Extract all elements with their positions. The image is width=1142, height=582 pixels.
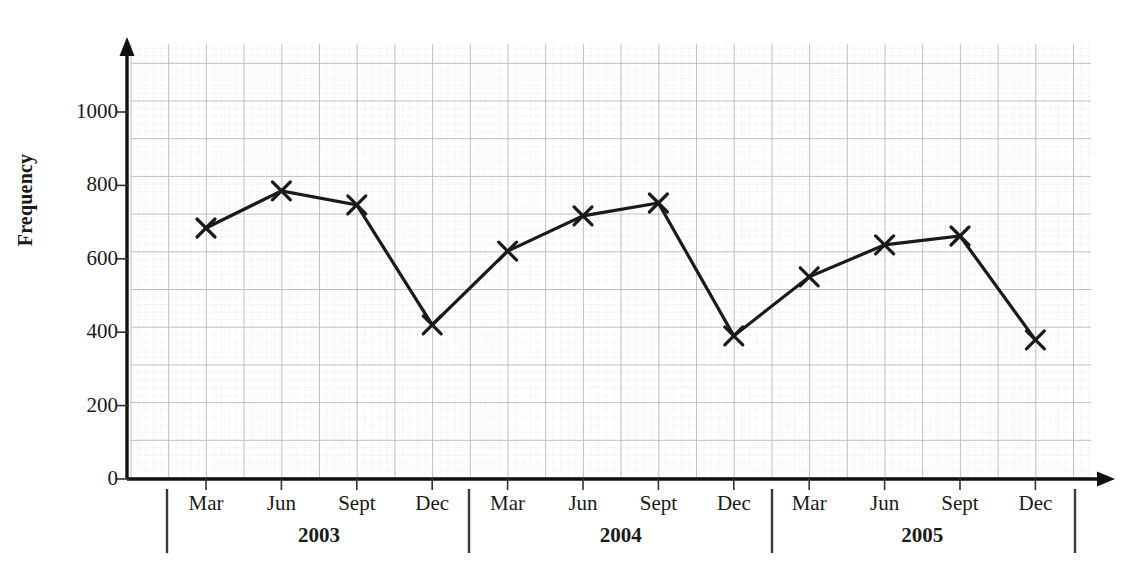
- x-axis-tick-label: Sept: [640, 492, 677, 515]
- grid-minor: [131, 44, 1091, 478]
- x-axis-tick-label: Mar: [792, 492, 827, 515]
- x-axis-tick-label: Jun: [870, 492, 899, 515]
- y-axis-tick-label: 600: [28, 248, 118, 269]
- y-axis-tick-label: 0: [28, 468, 118, 489]
- grid-major: [131, 44, 1091, 478]
- x-axis-tick-label: Mar: [189, 492, 224, 515]
- x-axis-year-label: 2005: [901, 524, 943, 547]
- x-axis-tick-label: Sept: [338, 492, 375, 515]
- x-axis-tick-label: Jun: [267, 492, 296, 515]
- frequency-time-series-chart: Frequency 02004006008001000 MarJunSeptDe…: [0, 0, 1142, 582]
- axes: [120, 37, 1116, 487]
- x-axis-tick-label: Dec: [415, 492, 449, 515]
- y-axis-tick-label: 200: [28, 395, 118, 416]
- y-axis-tick-label: 800: [28, 174, 118, 195]
- x-axis-year-label: 2004: [600, 524, 642, 547]
- x-axis-tick-label: Jun: [568, 492, 597, 515]
- y-axis-tick-label: 1000: [28, 101, 118, 122]
- y-axis-tick-label: 400: [28, 321, 118, 342]
- x-axis-tick-label: Mar: [490, 492, 525, 515]
- x-axis-tick-label: Dec: [717, 492, 751, 515]
- x-axis-year-label: 2003: [298, 524, 340, 547]
- y-axis-title: Frequency: [14, 100, 37, 300]
- x-axis-tick-label: Dec: [1018, 492, 1052, 515]
- x-axis-tick-label: Sept: [941, 492, 978, 515]
